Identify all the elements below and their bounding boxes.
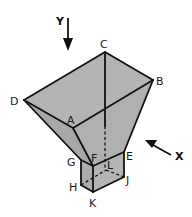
label-f: F (91, 152, 97, 165)
label-h: H (69, 181, 77, 194)
label-k: K (89, 197, 97, 210)
label-l: L (107, 159, 114, 172)
y-arrow-head-icon (63, 38, 73, 51)
label-b: B (156, 75, 164, 88)
label-d: D (10, 95, 18, 108)
label-j: J (125, 174, 129, 187)
hopper-diagram: Y X C B D A E F G L J H K (0, 0, 192, 217)
label-c: C (100, 38, 108, 51)
y-axis-label: Y (55, 15, 65, 28)
x-axis-label: X (175, 150, 184, 163)
label-a: A (67, 114, 75, 127)
label-g: G (67, 156, 76, 169)
x-axis-indicator: X (145, 140, 184, 163)
y-axis-indicator: Y (55, 15, 73, 51)
label-e: E (126, 150, 133, 163)
x-arrow-shaft (153, 145, 171, 155)
